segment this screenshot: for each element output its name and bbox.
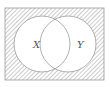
venn-svg: X Y [0, 0, 110, 87]
venn-diagram: X Y [0, 0, 110, 87]
set-x-label: X [32, 39, 41, 50]
